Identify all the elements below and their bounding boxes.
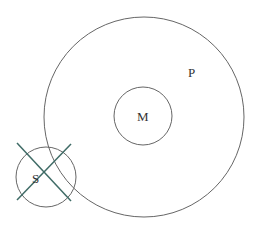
- label-p: P: [188, 66, 195, 79]
- label-s: S: [32, 172, 39, 185]
- diagram-canvas: P M S: [0, 0, 258, 234]
- label-m: M: [137, 110, 149, 123]
- circle-s: [16, 147, 76, 207]
- diagram-svg: [0, 0, 258, 234]
